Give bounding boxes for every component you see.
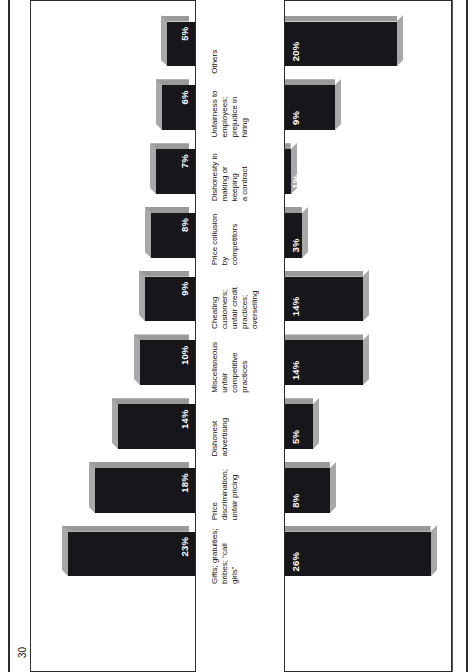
bar-value-label: 6% xyxy=(179,90,190,104)
category-label: Dishonest advertising xyxy=(210,399,230,457)
bar-side-face xyxy=(150,143,189,149)
chart-page: 30150%1961 percentage0%15301976 percenta… xyxy=(0,0,474,672)
bar-group: 3% xyxy=(285,213,451,258)
category-label-column: Gifts; gratuities; bribes; “call girls”P… xyxy=(196,0,284,672)
bar-group: 9% xyxy=(31,277,195,322)
bar-side-face xyxy=(285,398,313,404)
bar-side-face xyxy=(145,207,189,213)
bar: 26% xyxy=(285,532,431,577)
bar-group: 5% xyxy=(285,404,451,449)
bar-side-face xyxy=(285,526,431,532)
bar-value-label: 8% xyxy=(179,218,190,232)
outer-rule-top xyxy=(8,0,10,672)
bar: 18% xyxy=(95,468,195,513)
bar-group: 10% xyxy=(31,340,195,385)
bar-top-face xyxy=(302,207,308,258)
bar-top-face xyxy=(363,271,369,322)
bar: 9% xyxy=(145,277,195,322)
bar-value-label: 14% xyxy=(179,409,190,429)
bar: 7% xyxy=(156,149,195,194)
bar-top-face xyxy=(150,143,156,194)
bar-side-face xyxy=(89,462,189,468)
category-label: Price collusion by competitors xyxy=(210,207,240,265)
bar-value-label: 14% xyxy=(290,360,301,380)
bar: 5% xyxy=(285,404,313,449)
bar-side-face xyxy=(62,526,189,532)
bar: 5% xyxy=(167,22,195,67)
bars-1976: 26%8%5%14%14%3%1%9%20% xyxy=(285,1,451,671)
bar-value-label: 3% xyxy=(290,238,301,252)
bar: 23% xyxy=(68,532,195,577)
bar-value-label: 20% xyxy=(290,42,301,62)
bar-top-face xyxy=(156,79,162,130)
bar-value-label: 5% xyxy=(290,430,301,444)
bar-top-face xyxy=(161,16,167,67)
bar-top-face xyxy=(89,462,95,513)
bar-group: 14% xyxy=(31,404,195,449)
chart-rotated-canvas: 30150%1961 percentage0%15301976 percenta… xyxy=(0,0,474,672)
bar-face xyxy=(285,22,397,67)
bar-group: 20% xyxy=(285,22,451,67)
bar-face xyxy=(68,532,195,577)
bar-top-face xyxy=(112,398,118,449)
bar-top-face xyxy=(62,526,68,577)
bar-top-face xyxy=(134,334,140,385)
bar-face xyxy=(285,532,431,577)
bar-group: 7% xyxy=(31,149,195,194)
category-label: Others xyxy=(210,16,220,74)
bar-value-label: 1% xyxy=(290,175,301,189)
bar-top-face xyxy=(335,79,341,130)
bar-side-face xyxy=(285,16,397,22)
bar-side-face xyxy=(134,334,189,340)
bar-group: 14% xyxy=(285,340,451,385)
bar-group: 23% xyxy=(31,532,195,577)
bar: 14% xyxy=(285,277,363,322)
bar-group: 26% xyxy=(285,532,451,577)
bar: 14% xyxy=(285,340,363,385)
bar: 3% xyxy=(285,213,302,258)
bar-value-label: 7% xyxy=(179,154,190,168)
category-label: Price discrimination; unfair pricing xyxy=(210,462,240,520)
bar-top-face xyxy=(313,398,319,449)
bar-group: 1% xyxy=(285,149,451,194)
bar: 8% xyxy=(151,213,195,258)
bar-group: 6% xyxy=(31,85,195,130)
bar-value-label: 26% xyxy=(290,552,301,572)
bar: 20% xyxy=(285,22,397,67)
category-label: Cheating customers; unfair credit practi… xyxy=(210,271,260,329)
bar-side-face xyxy=(285,271,363,277)
bar-group: 18% xyxy=(31,468,195,513)
bar-value-label: 10% xyxy=(179,345,190,365)
bars-1961: 23%18%14%10%9%8%7%6%5% xyxy=(31,1,195,671)
bar-top-face xyxy=(397,16,403,67)
bar-value-label: 18% xyxy=(179,473,190,493)
bar-group: 8% xyxy=(285,468,451,513)
category-label: Dishonesty in making or keeping a contra… xyxy=(210,144,250,202)
category-label: Unfairness to employees; prejudice in hi… xyxy=(210,80,250,138)
plot-1961: 23%18%14%10%9%8%7%6%5% xyxy=(30,0,196,672)
bar: 10% xyxy=(140,340,195,385)
bar-top-face xyxy=(145,207,151,258)
bar-value-label: 14% xyxy=(290,297,301,317)
bar-value-label: 8% xyxy=(290,494,301,508)
bar-group: 14% xyxy=(285,277,451,322)
bar-top-face xyxy=(431,526,437,577)
bar-side-face xyxy=(285,79,335,85)
bar-side-face xyxy=(285,334,363,340)
bar: 14% xyxy=(118,404,195,449)
bar-group: 8% xyxy=(31,213,195,258)
bar-value-label: 9% xyxy=(290,111,301,125)
bar-top-face xyxy=(139,271,145,322)
axis-rule-1976-30 xyxy=(452,0,453,672)
bar-side-face xyxy=(285,462,330,468)
bar-side-face xyxy=(139,271,189,277)
bar-group: 5% xyxy=(31,22,195,67)
bar-value-label: 5% xyxy=(179,27,190,41)
bar-side-face xyxy=(285,143,291,149)
category-label: Miscellaneous unfair competitive practic… xyxy=(210,335,250,393)
bar: 8% xyxy=(285,468,330,513)
outer-rule-bottom xyxy=(466,0,468,672)
bar-side-face xyxy=(112,398,189,404)
bar-value-label: 23% xyxy=(179,537,190,557)
bar: 1% xyxy=(285,149,291,194)
